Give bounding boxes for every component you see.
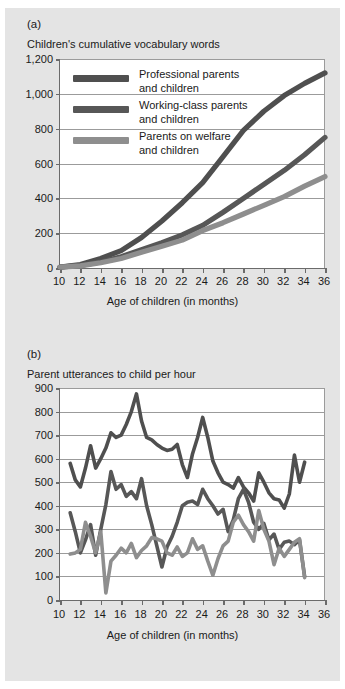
panel-a-xtick-20 [162, 268, 164, 273]
legend-label-welfare: Parents on welfare and children [139, 130, 231, 157]
panel-a-ytick-label-0: 0 [7, 262, 53, 274]
panel-b-xaxis-caption: Age of children (in months) [5, 629, 340, 641]
panel-b-ytick-label-400: 400 [7, 500, 53, 512]
panel-b-xtick-20 [162, 600, 164, 605]
panel-b: (b) Parent utterances to child per hour … [5, 344, 340, 674]
panel-a-xtick-24 [203, 268, 205, 273]
panel-a-letter: (a) [27, 18, 41, 30]
panel-a-xtick-12 [80, 268, 82, 273]
panel-b-xtick-24 [203, 600, 205, 605]
panel-b-letter: (b) [27, 348, 41, 360]
panel-b-ytick-label-500: 500 [7, 476, 53, 488]
panel-b-xtick-26 [223, 600, 225, 605]
panel-a-xtick-18 [142, 268, 144, 273]
panel-a-xtick-32 [284, 268, 286, 273]
panel-a-xtick-34 [305, 268, 307, 273]
panel-a-ytick-label-1000: 1,000 [7, 88, 53, 100]
panel-a-xtick-30 [264, 268, 266, 273]
panel-b-plot-area [59, 388, 325, 601]
panel-a-title: Children's cumulative vocabulary words [27, 38, 220, 50]
panel-a-xlabel-36: 36 [312, 275, 336, 287]
panel-b-ytick-label-600: 600 [7, 453, 53, 465]
panel-b-title: Parent utterances to child per hour [27, 368, 196, 380]
panel-b-xtick-14 [101, 600, 103, 605]
panel-b-xtick-16 [121, 600, 123, 605]
legend-swatch-welfare [73, 137, 129, 144]
panel-a-xtick-16 [121, 268, 123, 273]
panel-a-xtick-22 [182, 268, 184, 273]
legend-label-working-class-line2: and children [139, 113, 248, 127]
legend-label-professional: Professional parents and children [139, 68, 239, 95]
panel-b-ytick-label-100: 100 [7, 570, 53, 582]
legend-label-welfare-line2: and children [139, 144, 231, 158]
panel-a-xtick-14 [101, 268, 103, 273]
legend-label-working-class-line1: Working-class parents [139, 99, 248, 113]
legend-label-professional-line1: Professional parents [139, 68, 239, 82]
panel-b-xtick-34 [305, 600, 307, 605]
panel-b-xtick-32 [284, 600, 286, 605]
panel-b-ytick-label-700: 700 [7, 429, 53, 441]
panel-a-xtick-26 [223, 268, 225, 273]
legend-swatch-working-class [73, 106, 129, 113]
panel-b-xtick-12 [80, 600, 82, 605]
panel-a: (a) Children's cumulative vocabulary wor… [5, 14, 340, 344]
panel-a-xtick-28 [243, 268, 245, 273]
panel-b-line-working-class [70, 472, 304, 577]
panel-a-ytick-label-800: 800 [7, 123, 53, 135]
panel-b-line-welfare [70, 510, 304, 592]
panel-a-ytick-label-200: 200 [7, 227, 53, 239]
panel-b-ytick-label-0: 0 [7, 594, 53, 606]
figure-page: (a) Children's cumulative vocabulary wor… [5, 8, 340, 681]
panel-b-xtick-22 [182, 600, 184, 605]
legend-label-professional-line2: and children [139, 82, 239, 96]
panel-b-ytick-label-300: 300 [7, 523, 53, 535]
panel-b-xtick-36 [325, 600, 327, 605]
panel-a-xaxis-caption: Age of children (in months) [5, 295, 340, 307]
legend-label-working-class: Working-class parents and children [139, 99, 248, 126]
panel-b-xlabel-36: 36 [312, 608, 336, 620]
panel-b-xtick-18 [142, 600, 144, 605]
panel-a-xtick-36 [325, 268, 327, 273]
panel-a-ytick-label-600: 600 [7, 158, 53, 170]
panel-b-xtick-10 [60, 600, 62, 605]
panel-b-ytick-label-900: 900 [7, 382, 53, 394]
panel-b-ytick-label-800: 800 [7, 406, 53, 418]
panel-a-ytick-label-1200: 1,200 [7, 53, 53, 65]
panel-b-xtick-30 [264, 600, 266, 605]
panel-b-ytick-label-200: 200 [7, 547, 53, 559]
legend-swatch-professional [73, 75, 129, 82]
panel-b-lines [60, 388, 325, 600]
legend-label-welfare-line1: Parents on welfare [139, 130, 231, 144]
panel-b-line-professional [70, 394, 304, 508]
panel-b-xtick-28 [243, 600, 245, 605]
panel-a-ytick-label-400: 400 [7, 192, 53, 204]
